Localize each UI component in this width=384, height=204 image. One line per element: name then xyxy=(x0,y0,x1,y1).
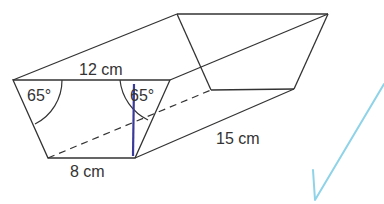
label-angle-right: 65° xyxy=(130,87,154,104)
edge-bottom-right xyxy=(135,89,294,158)
prism-diagram: 12 cm 8 cm 15 cm 65° 65° xyxy=(0,0,384,204)
back-left-edge xyxy=(177,14,211,90)
back-right-edge xyxy=(294,14,328,89)
label-top-edge: 12 cm xyxy=(79,61,123,78)
label-length: 15 cm xyxy=(216,130,260,147)
checkmark-icon xyxy=(313,84,384,200)
label-angle-left: 65° xyxy=(27,87,51,104)
back-bottom-edge xyxy=(211,89,294,90)
edge-top-right xyxy=(170,14,328,80)
label-bottom-edge: 8 cm xyxy=(70,163,105,180)
